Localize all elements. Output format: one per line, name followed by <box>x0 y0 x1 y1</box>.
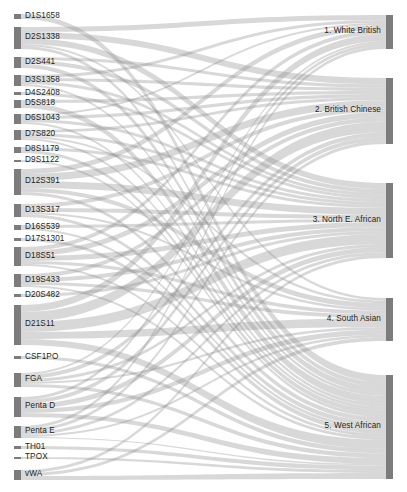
sankey-node-D8S1179[interactable] <box>14 147 21 153</box>
sankey-diagram: D1S1658D2S1338D2S441D3S1358D4S2408D5S818… <box>0 0 407 492</box>
sankey-node-label-D6S1043: D6S1043 <box>25 114 60 122</box>
sankey-node-PentaD[interactable] <box>14 397 21 417</box>
sankey-node-D2S441[interactable] <box>14 57 21 68</box>
sankey-node-label-D4S2408: D4S2408 <box>25 89 60 97</box>
sankey-node-D7S820[interactable] <box>14 130 21 140</box>
sankey-node-PentaE[interactable] <box>14 426 21 438</box>
sankey-node-D20S482[interactable] <box>14 294 21 297</box>
sankey-node-label-west_african: 5. West African <box>325 422 381 430</box>
sankey-node-D16S539[interactable] <box>14 225 21 230</box>
sankey-node-D13S317[interactable] <box>14 204 21 217</box>
sankey-node-vWA[interactable] <box>14 470 21 480</box>
sankey-node-label-TH01: TH01 <box>25 443 45 451</box>
sankey-node-D1S1658[interactable] <box>14 14 21 19</box>
sankey-node-label-D21S11: D21S11 <box>25 320 55 328</box>
sankey-node-label-FGA: FGA <box>25 375 42 383</box>
sankey-node-label-D16S539: D16S539 <box>25 223 60 231</box>
sankey-canvas <box>0 0 407 492</box>
sankey-node-D19S433[interactable] <box>14 274 21 287</box>
sankey-node-D3S1358[interactable] <box>14 75 21 86</box>
sankey-node-label-CSF1PO: CSF1PO <box>25 353 58 361</box>
sankey-node-label-D3S1358: D3S1358 <box>25 76 60 84</box>
sankey-node-label-PentaE: Penta E <box>25 427 55 435</box>
sankey-node-west_african[interactable] <box>386 375 393 479</box>
sankey-node-label-D19S433: D19S433 <box>25 276 60 284</box>
sankey-node-label-D20S482: D20S482 <box>25 291 60 299</box>
sankey-node-D9S1122[interactable] <box>14 160 21 162</box>
sankey-link[interactable] <box>21 473 386 480</box>
sankey-node-label-D1S1658: D1S1658 <box>25 12 60 20</box>
sankey-node-D5S818[interactable] <box>14 100 21 108</box>
sankey-node-label-north_e_african: 3. North E. African <box>313 216 381 224</box>
sankey-node-D18S51[interactable] <box>14 247 21 266</box>
sankey-node-label-D18S51: D18S51 <box>25 252 55 260</box>
sankey-node-D12S391[interactable] <box>14 169 21 195</box>
sankey-node-D4S2408[interactable] <box>14 92 21 95</box>
sankey-node-TPOX[interactable] <box>14 457 21 459</box>
sankey-node-label-D2S441: D2S441 <box>25 58 55 66</box>
sankey-node-south_asian[interactable] <box>386 298 393 341</box>
sankey-node-label-white_british: 1. White British <box>324 27 381 35</box>
sankey-node-label-D2S1338: D2S1338 <box>25 33 60 41</box>
sankey-node-label-D7S820: D7S820 <box>25 130 55 138</box>
sankey-node-D21S11[interactable] <box>14 305 21 345</box>
sankey-node-label-TPOX: TPOX <box>25 453 48 461</box>
sankey-node-label-D12S391: D12S391 <box>25 177 60 185</box>
sankey-node-white_british[interactable] <box>386 15 393 49</box>
sankey-node-label-D9S1122: D9S1122 <box>25 156 59 164</box>
sankey-node-D2S1338[interactable] <box>14 27 21 49</box>
sankey-node-label-PentaD: Penta D <box>25 402 55 410</box>
sankey-node-label-D5S818: D5S818 <box>25 99 55 107</box>
sankey-node-label-south_asian: 4. South Asian <box>327 315 381 323</box>
sankey-node-D17S1301[interactable] <box>14 238 21 241</box>
sankey-node-TH01[interactable] <box>14 446 21 449</box>
sankey-node-label-D13S317: D13S317 <box>25 206 60 214</box>
sankey-node-CSF1PO[interactable] <box>14 356 21 359</box>
sankey-links-layer <box>21 14 386 480</box>
sankey-node-label-D17S1301: D17S1301 <box>25 235 65 243</box>
sankey-node-british_chinese[interactable] <box>386 78 393 144</box>
sankey-node-D6S1043[interactable] <box>14 114 21 124</box>
sankey-node-FGA[interactable] <box>14 373 21 387</box>
sankey-node-north_e_african[interactable] <box>386 183 393 258</box>
sankey-node-label-vWA: vWA <box>25 470 42 478</box>
sankey-node-label-british_chinese: 2. British Chinese <box>315 106 381 114</box>
sankey-node-label-D8S1179: D8S1179 <box>25 145 59 153</box>
